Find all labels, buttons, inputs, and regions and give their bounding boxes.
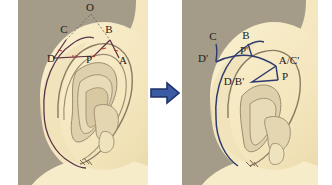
postoperative-illustration: C B D' P' A/C' D/B' P (182, 0, 318, 185)
point-p-marker (93, 55, 95, 57)
label-a: A (119, 54, 127, 66)
panel-postoperative: C B D' P' A/C' D/B' P (182, 0, 318, 185)
label-d: D (47, 52, 55, 64)
label-a-c-prime: A/C' (279, 54, 299, 66)
label-b: B (105, 23, 112, 35)
label-p-prime: P' (240, 44, 248, 56)
leader-line-c (216, 44, 217, 62)
label-p: P (86, 53, 92, 65)
label-d-b-prime: D/B' (224, 75, 244, 87)
label-p: P (282, 70, 288, 82)
preoperative-illustration: O C B D P A (18, 0, 148, 185)
antitragus-region (99, 131, 114, 152)
figure-root: O C B D P A (0, 0, 332, 185)
panel-preoperative: O C B D P A (18, 0, 148, 185)
label-o: O (86, 1, 94, 13)
label-d-prime: D' (198, 52, 208, 64)
label-b: B (242, 29, 249, 41)
label-c: C (209, 30, 216, 42)
right-arrow-icon (150, 80, 180, 106)
label-c: C (60, 23, 67, 35)
antitragus-region (269, 143, 284, 164)
transition-arrow (150, 80, 180, 106)
